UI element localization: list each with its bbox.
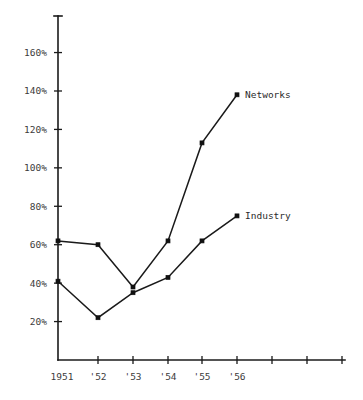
- chart-canvas: 20%40%60%80%100%120%140%160% 1951'52'53'…: [0, 0, 363, 400]
- series-label-layer: NetworksIndustry: [245, 89, 291, 221]
- x-axis-tick-label: '52: [89, 371, 106, 382]
- x-axis-tick-label: 1951: [51, 371, 74, 382]
- y-axis-tick-label: 80%: [30, 201, 47, 212]
- y-axis-tick-label: 160%: [24, 47, 47, 58]
- y-axis-tick-label: 40%: [30, 278, 47, 289]
- data-point-marker: [166, 275, 170, 279]
- x-axis-tick-label: '54: [159, 371, 176, 382]
- series-layer: [56, 93, 239, 320]
- series-line-networks: [58, 95, 237, 287]
- x-axis-tick-label: '55: [193, 371, 210, 382]
- data-point-marker: [131, 291, 135, 295]
- y-axis-tick-label: 140%: [24, 85, 47, 96]
- line-chart-figure: 20%40%60%80%100%120%140%160% 1951'52'53'…: [0, 0, 363, 400]
- series-label-industry: Industry: [245, 210, 291, 221]
- data-point-marker: [96, 316, 100, 320]
- data-point-marker: [131, 285, 135, 289]
- data-point-marker: [200, 141, 204, 145]
- data-point-marker: [166, 239, 170, 243]
- data-point-marker: [56, 279, 60, 283]
- data-point-marker: [235, 93, 239, 97]
- y-axis-tick-label: 60%: [30, 239, 47, 250]
- y-axis-tick-label: 120%: [24, 124, 47, 135]
- y-axis-tick-label: 100%: [24, 162, 47, 173]
- x-axis-tick-label: '56: [228, 371, 245, 382]
- series-label-networks: Networks: [245, 89, 291, 100]
- y-axis: 20%40%60%80%100%120%140%160%: [24, 16, 62, 360]
- x-axis: 1951'52'53'54'55'56: [51, 356, 345, 382]
- data-point-marker: [235, 214, 239, 218]
- data-point-marker: [56, 239, 60, 243]
- y-axis-tick-label: 20%: [30, 316, 47, 327]
- data-point-marker: [200, 239, 204, 243]
- data-point-marker: [96, 243, 100, 247]
- x-axis-tick-label: '53: [124, 371, 141, 382]
